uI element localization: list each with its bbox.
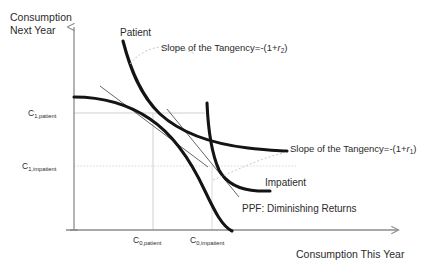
tangency-r1-suffix: ) bbox=[413, 143, 416, 154]
x-tick-c0-impatient-sub: 0,impatient bbox=[196, 240, 224, 246]
impatient-curve-label: Impatient bbox=[265, 177, 306, 190]
y-tick-label-c1-impatient: C1,impatient bbox=[22, 161, 56, 172]
axes-group bbox=[66, 27, 398, 230]
x-tick-c0-patient-sub: 0,patient bbox=[139, 240, 161, 246]
tangency-annotation-r2: Slope of the Tangency=-(1+r2) bbox=[161, 42, 287, 54]
x-tick-label-c0-patient: C0,patient bbox=[133, 235, 161, 246]
diagram-vector-layer bbox=[0, 0, 435, 273]
y-tick-label-c1-patient: C1,patient bbox=[28, 108, 56, 119]
y-tick-c1-patient-sub: 1,patient bbox=[34, 113, 56, 119]
tangent-line-r2 bbox=[100, 86, 208, 167]
tangency-r1-prefix: Slope of the Tangency=-(1+ bbox=[290, 143, 407, 154]
y-axis-title-line2: Next Year bbox=[10, 24, 72, 37]
y-axis-title-line1: Consumption bbox=[10, 11, 72, 24]
ppf-curve-label: PPF: Diminishing Returns bbox=[242, 203, 356, 216]
diagram-canvas: Consumption Next Year Consumption This Y… bbox=[0, 0, 435, 273]
y-axis-title: Consumption Next Year bbox=[10, 11, 72, 37]
tangency-r2-suffix: ) bbox=[284, 42, 287, 53]
patient-curve-label: Patient bbox=[120, 27, 151, 40]
x-axis-title: Consumption This Year bbox=[296, 248, 404, 261]
tangency-annotation-r1: Slope of the Tangency=-(1+r1) bbox=[290, 143, 416, 155]
y-tick-c1-impatient-sub: 1,impatient bbox=[28, 166, 56, 172]
patient-curve bbox=[123, 41, 287, 151]
tangency-r1-sub: 1 bbox=[410, 148, 414, 155]
tangency-r2-prefix: Slope of the Tangency=-(1+ bbox=[161, 42, 278, 53]
x-tick-label-c0-impatient: C0,impatient bbox=[190, 235, 224, 246]
tangency-r2-sub: 2 bbox=[281, 47, 285, 54]
